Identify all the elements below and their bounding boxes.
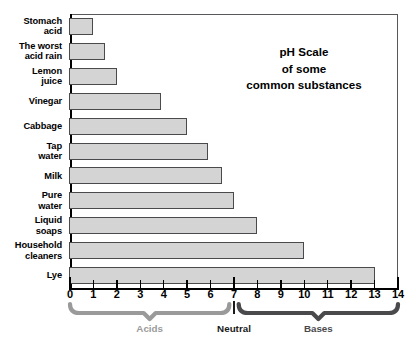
x-axis-tick <box>140 280 141 288</box>
category-label-line: soaps <box>0 226 62 236</box>
category-label-line: acid <box>0 26 62 36</box>
category-label-line: Household <box>0 240 62 250</box>
x-axis-tick-label: 3 <box>128 288 152 300</box>
bracket-label: Bases <box>304 323 333 334</box>
title-line-3: common substances <box>216 77 392 94</box>
title-line-1: pH Scale <box>216 44 392 61</box>
x-axis-tick-label: 14 <box>386 288 410 300</box>
category-label-line: Pure <box>0 190 62 200</box>
bracket-bases <box>239 304 398 319</box>
category-label-line: Milk <box>0 171 62 181</box>
x-axis-tick <box>210 280 211 288</box>
x-axis-tick <box>374 280 375 288</box>
x-axis-tick-label: 0 <box>58 288 82 300</box>
bar <box>69 167 222 184</box>
x-axis-tick-label: 1 <box>81 288 105 300</box>
x-axis-tick <box>69 277 70 288</box>
category-label: Lemonjuice <box>0 66 62 87</box>
category-label-line: water <box>0 151 62 161</box>
x-axis-tick <box>93 280 94 288</box>
category-label-line: Cabbage <box>0 121 62 131</box>
category-label-line: acid rain <box>0 51 62 61</box>
x-axis-tick-label: 5 <box>175 288 199 300</box>
bar <box>69 43 105 60</box>
category-label: Householdcleaners <box>0 240 62 261</box>
category-label: Stomachacid <box>0 16 62 37</box>
x-axis-tick <box>327 280 328 288</box>
category-label-line: juice <box>0 76 62 86</box>
bar <box>69 68 117 85</box>
x-axis-tick-label: 2 <box>105 288 129 300</box>
category-label-line: water <box>0 201 62 211</box>
ph-scale-figure: StomachacidThe worstacid rainLemonjuiceV… <box>0 0 416 339</box>
chart-title: pH Scale of some common substances <box>216 44 392 94</box>
x-axis-tick <box>233 277 234 288</box>
category-label: Liquidsoaps <box>0 215 62 236</box>
bracket-label: Neutral <box>217 323 251 334</box>
x-axis-tick-label: 8 <box>245 288 269 300</box>
bar <box>69 267 375 284</box>
category-label: The worstacid rain <box>0 41 62 62</box>
category-label-line: cleaners <box>0 251 62 261</box>
x-axis-tick-label: 12 <box>339 288 363 300</box>
bar <box>69 118 187 135</box>
x-axis-tick <box>186 280 187 288</box>
x-axis-tick-label: 10 <box>292 288 316 300</box>
x-axis-tick-label: 9 <box>269 288 293 300</box>
category-label-line: Lemon <box>0 66 62 76</box>
category-label-line: Vinegar <box>0 96 62 106</box>
x-axis-tick-label: 13 <box>363 288 387 300</box>
category-label-line: Liquid <box>0 215 62 225</box>
category-label-line: Stomach <box>0 16 62 26</box>
x-axis-tick <box>257 280 258 288</box>
x-axis-tick <box>280 280 281 288</box>
bar <box>69 217 257 234</box>
x-axis-tick <box>116 280 117 288</box>
bar <box>69 242 304 259</box>
x-axis-tick <box>163 280 164 288</box>
title-line-2: of some <box>216 61 392 78</box>
category-label-line: Lye <box>0 270 62 280</box>
x-axis-tick <box>350 280 351 288</box>
category-label-column: StomachacidThe worstacid rainLemonjuiceV… <box>0 14 66 289</box>
category-label: Milk <box>0 171 62 181</box>
x-axis-tick-label: 7 <box>222 288 246 300</box>
category-label: Cabbage <box>0 121 62 131</box>
bar <box>69 143 208 160</box>
x-axis-tick-label: 11 <box>316 288 340 300</box>
category-label: Purewater <box>0 190 62 211</box>
x-axis-tick-label: 6 <box>199 288 223 300</box>
bracket-acids <box>70 304 229 319</box>
category-label: Lye <box>0 270 62 280</box>
bar <box>69 18 93 35</box>
bar <box>69 93 161 110</box>
bar <box>69 192 234 209</box>
x-axis-tick-label: 4 <box>152 288 176 300</box>
category-label-line: Tap <box>0 141 62 151</box>
category-label-line: The worst <box>0 41 62 51</box>
x-axis-tick <box>397 277 398 288</box>
bracket-label: Acids <box>136 323 163 334</box>
category-label: Vinegar <box>0 96 62 106</box>
range-brackets: AcidsNeutralBases <box>0 300 416 339</box>
x-axis-tick <box>304 280 305 288</box>
category-label: Tapwater <box>0 141 62 162</box>
